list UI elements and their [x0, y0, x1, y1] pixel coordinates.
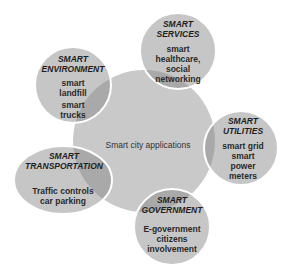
- utilities-title-1: SMART: [228, 116, 259, 126]
- services-body-3: social: [166, 64, 190, 74]
- services-title-2: SERVICES: [157, 29, 200, 39]
- transportation-title-1: SMART: [49, 151, 80, 161]
- government-title-1: SMART: [157, 195, 188, 205]
- center-label: Smart city applications: [105, 140, 190, 150]
- government-body-1: E-government: [143, 224, 200, 234]
- transportation-body-2: car parking: [40, 196, 86, 206]
- utilities-title-2: UTILITIES: [223, 126, 263, 136]
- smart-city-diagram: SMART ENVIRONMENT smart landfill smart t…: [0, 0, 288, 276]
- environment-body-3: smart: [61, 100, 84, 110]
- environment-body-2: landfill: [59, 88, 86, 98]
- services-body-2: healthcare,: [156, 54, 201, 64]
- transportation-body-1: Traffic controls: [32, 186, 94, 196]
- government-title-2: GOVERNMENT: [142, 205, 204, 215]
- services-body-4: networking: [155, 74, 200, 84]
- transportation-title-2: TRANSPORTATION: [25, 161, 104, 171]
- government-body-2: citizens: [156, 234, 187, 244]
- government-body-3: involvement: [147, 244, 197, 254]
- node-services: SMART SERVICES smart healthcare, social …: [140, 13, 216, 89]
- utilities-body-3: power: [230, 161, 256, 171]
- environment-body-1: smart: [61, 78, 84, 88]
- services-title-1: SMART: [163, 19, 194, 29]
- environment-title-1: SMART: [58, 54, 89, 64]
- utilities-body-2: smart: [231, 151, 254, 161]
- node-government: SMART GOVERNMENT E-government citizens i…: [134, 189, 210, 265]
- environment-body-4: trucks: [60, 110, 86, 120]
- node-transportation: SMART TRANSPORTATION Traffic controls ca…: [14, 146, 112, 214]
- utilities-body-1: smart grid: [222, 141, 264, 151]
- environment-title-2: ENVIRONMENT: [42, 64, 106, 74]
- services-body-1: smart: [166, 44, 189, 54]
- utilities-body-4: meters: [229, 171, 257, 181]
- node-environment: SMART ENVIRONMENT smart landfill smart t…: [35, 47, 111, 123]
- node-utilities: SMART UTILITIES smart grid smart power m…: [204, 111, 278, 185]
